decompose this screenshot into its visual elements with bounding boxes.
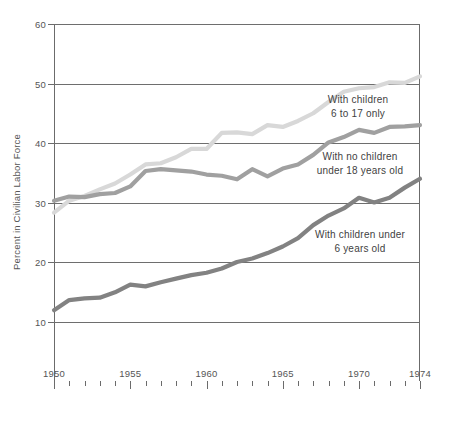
y-tick-label-40: 40 (35, 138, 46, 149)
x-tick-1956 (146, 381, 147, 386)
plot-area: 102030405060 (54, 24, 420, 381)
y-tick-label-10: 10 (35, 316, 46, 327)
x-tick-label-1965: 1965 (272, 368, 294, 379)
x-tick-1964 (268, 381, 269, 386)
x-tick-1961 (222, 381, 223, 386)
x-tick-label-1974: 1974 (409, 368, 431, 379)
x-tick-1955 (130, 381, 131, 389)
x-tick-1972 (390, 381, 391, 386)
x-tick-1950 (54, 381, 55, 389)
x-tick-1974 (420, 381, 421, 389)
y-tick-label-20: 20 (35, 257, 46, 268)
x-tick-1966 (298, 381, 299, 386)
annot-no-children-line1: With no children (317, 150, 403, 164)
x-tick-1967 (313, 381, 314, 386)
x-tick-1954 (115, 381, 116, 386)
x-tick-1973 (405, 381, 406, 386)
y-tick-label-60: 60 (35, 19, 46, 30)
x-tick-label-1955: 1955 (119, 368, 141, 379)
x-tick-label-1970: 1970 (348, 368, 370, 379)
x-tick-1957 (161, 381, 162, 386)
x-tick-1970 (359, 381, 360, 389)
annot-no-children-line2: under 18 years old (317, 164, 403, 178)
x-tick-1951 (69, 381, 70, 386)
annot-children-6-17: With children6 to 17 only (328, 93, 388, 121)
x-tick-1960 (207, 381, 208, 389)
x-tick-1959 (191, 381, 192, 386)
x-tick-1962 (237, 381, 238, 386)
annot-children-under-6-line2: 6 years old (315, 242, 405, 256)
annot-no-children: With no childrenunder 18 years old (317, 150, 403, 178)
x-tick-1958 (176, 381, 177, 386)
x-tick-1965 (283, 381, 284, 389)
x-tick-label-1950: 1950 (43, 368, 65, 379)
x-tick-label-1960: 1960 (196, 368, 218, 379)
x-tick-1963 (252, 381, 253, 386)
annot-children-6-17-line2: 6 to 17 only (328, 107, 388, 121)
line-chart: Percent in Civilian Labor Force 10203040… (0, 0, 459, 426)
annot-children-under-6-line1: With children under (315, 228, 405, 242)
x-tick-1952 (85, 381, 86, 386)
series-lines (54, 24, 420, 381)
x-tick-1953 (100, 381, 101, 386)
y-tick-label-30: 30 (35, 197, 46, 208)
y-tick-label-50: 50 (35, 78, 46, 89)
x-tick-1969 (344, 381, 345, 386)
x-tick-1968 (329, 381, 330, 386)
x-tick-1971 (374, 381, 375, 386)
annot-children-6-17-line1: With children (328, 93, 388, 107)
annot-children-under-6: With children under6 years old (315, 228, 405, 256)
y-axis-title: Percent in Civilian Labor Force (11, 134, 22, 270)
